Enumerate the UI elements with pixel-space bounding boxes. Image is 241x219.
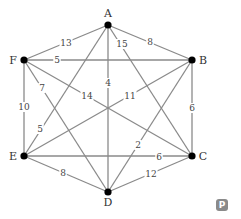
edge-weight-ED: 8 <box>60 168 66 178</box>
vertex-A <box>104 21 111 28</box>
vertex-label-B: B <box>199 54 207 67</box>
p-badge-icon: P <box>216 199 228 211</box>
edge-weight-FC: 14 <box>81 91 93 101</box>
edges <box>24 25 192 192</box>
edge-weight-BC: 6 <box>189 103 195 113</box>
vertex-F <box>20 56 27 63</box>
vertex-label-D: D <box>104 196 113 209</box>
vertex-label-E: E <box>9 150 17 163</box>
vertex-label-C: C <box>199 150 207 163</box>
vertex-B <box>188 56 195 63</box>
vertex-label-F: F <box>9 54 17 67</box>
edge-weight-BD: 2 <box>135 140 141 150</box>
edge-weight-EC: 6 <box>156 152 162 162</box>
vertex-label-A: A <box>103 7 113 20</box>
edge-weight-AB: 8 <box>147 37 153 47</box>
edge-weights: 138154551471011266812 <box>18 37 196 179</box>
vertex-C <box>188 152 195 159</box>
vertex-E <box>20 152 27 159</box>
edge-weight-FE: 10 <box>18 102 30 112</box>
edge-weight-AD: 4 <box>105 78 111 88</box>
edge-weight-FD: 7 <box>39 83 45 93</box>
edge-weight-FB: 5 <box>54 55 60 65</box>
vertex-D <box>104 188 111 195</box>
weighted-graph: 138154551471011266812 ABCDEF <box>0 0 241 219</box>
edge-weight-AE: 5 <box>37 124 43 134</box>
edge-weight-AF: 13 <box>60 38 72 48</box>
edge-weight-AC: 15 <box>116 39 128 49</box>
edge-weight-BE: 11 <box>124 91 135 101</box>
edge-weight-DC: 12 <box>145 169 156 179</box>
